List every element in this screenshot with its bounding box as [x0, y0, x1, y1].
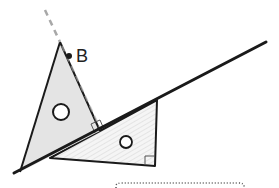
dotted-outline: [116, 183, 244, 188]
geometry-diagram: B: [0, 0, 279, 188]
circle-marker-1: [53, 104, 69, 120]
point-b-label: B: [76, 46, 88, 66]
circle-marker-2: [120, 136, 132, 148]
point-b-dot: [66, 53, 72, 59]
dashed-extension-line: [45, 10, 60, 42]
